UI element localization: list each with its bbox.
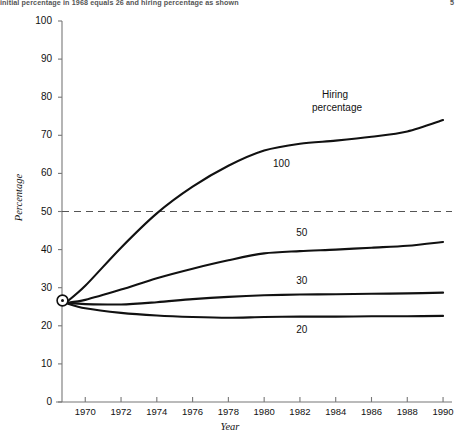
x-tick-label: 1972 <box>101 407 141 417</box>
x-tick-label: 1988 <box>387 407 427 417</box>
y-tick-label: 70 <box>18 130 52 140</box>
legend-title-line2: percentage <box>312 101 362 114</box>
chart-svg <box>0 0 460 441</box>
x-axis-ticks <box>85 397 443 402</box>
curve-label-20: 20 <box>296 324 307 336</box>
y-tick-label: 0 <box>18 397 52 407</box>
legend-title-line1: Hiring <box>322 88 348 101</box>
x-tick-label: 1982 <box>280 407 320 417</box>
data-curves <box>66 120 443 318</box>
x-tick-label: 1990 <box>423 407 460 417</box>
curve-label-100: 100 <box>273 158 290 170</box>
y-tick-label: 100 <box>18 16 52 26</box>
y-tick-label: 20 <box>18 321 52 331</box>
y-axis-ticks <box>58 21 62 402</box>
y-tick-label: 50 <box>18 207 52 217</box>
x-tick-label: 1970 <box>65 407 105 417</box>
x-tick-label: 1984 <box>316 407 356 417</box>
y-tick-label: 90 <box>18 54 52 64</box>
curve-30 <box>66 293 443 305</box>
y-tick-label: 40 <box>18 245 52 255</box>
chart-canvas: Percentage Year 0102030405060708090100 1… <box>0 0 460 441</box>
start-point-marker <box>57 295 68 306</box>
y-tick-label: 30 <box>18 283 52 293</box>
x-tick-label: 1986 <box>351 407 391 417</box>
y-tick-label: 60 <box>18 168 52 178</box>
x-tick-label: 1978 <box>208 407 248 417</box>
y-tick-label: 10 <box>18 359 52 369</box>
x-tick-label: 1976 <box>173 407 213 417</box>
curve-label-50: 50 <box>296 227 307 239</box>
y-tick-label: 80 <box>18 92 52 102</box>
curve-label-30: 30 <box>296 275 307 287</box>
x-tick-label: 1980 <box>244 407 284 417</box>
x-tick-label: 1974 <box>137 407 177 417</box>
x-axis-label: Year <box>0 421 460 432</box>
